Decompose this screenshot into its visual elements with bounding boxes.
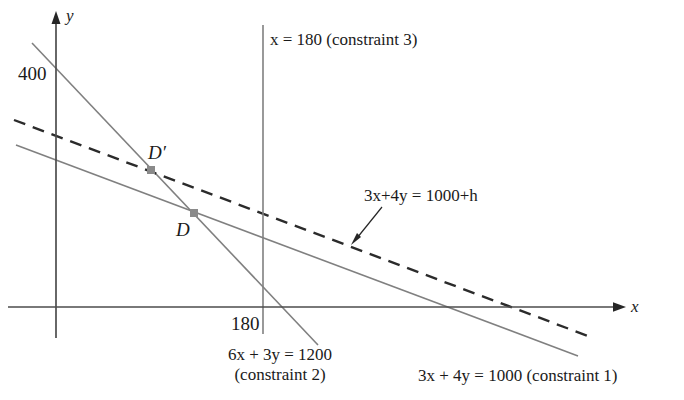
y-tick-label-400: 400 — [18, 63, 47, 85]
x-axis-label: x — [631, 297, 639, 317]
x-tick-label-180: 180 — [231, 313, 260, 335]
point-marker-d — [190, 209, 198, 217]
constraint-2-equation-label: 6x + 3y = 1200 (constraint 2) — [205, 345, 355, 385]
constraint-2-line — [32, 43, 318, 345]
x-axis-arrowhead — [613, 302, 626, 311]
objective-dashed-line — [14, 120, 588, 336]
linear-programming-figure: y x 400 180 D′ D x = 180 (constraint 3) … — [0, 0, 684, 400]
objective-annotation-arrow-shaft — [357, 207, 382, 238]
constraint-2-equation-line2: (constraint 2) — [205, 365, 355, 385]
point-label-d: D — [176, 219, 190, 241]
constraint-1-equation-label: 3x + 4y = 1000 (constraint 1) — [418, 366, 618, 386]
constraint-3-equation-label: x = 180 (constraint 3) — [270, 30, 417, 50]
point-marker-d-prime — [147, 166, 155, 174]
objective-equation-label: 3x+4y = 1000+h — [364, 186, 478, 206]
constraint-1-line — [16, 145, 578, 356]
point-label-d-prime: D′ — [148, 142, 166, 164]
y-axis-label: y — [66, 6, 74, 26]
constraint-2-equation-line1: 6x + 3y = 1200 — [205, 345, 355, 365]
y-axis-arrowhead — [52, 11, 61, 24]
graph-canvas — [0, 0, 684, 400]
